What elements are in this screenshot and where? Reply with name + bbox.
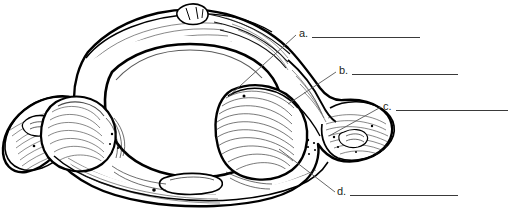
label-c[interactable]: c. [383,101,508,112]
posterior-tubercle [177,4,208,25]
worksheet-page: a. b. c. d. [0,0,514,222]
answer-line-b[interactable] [352,74,458,75]
label-d-letter: d. [337,186,350,197]
label-a[interactable]: a. [299,28,420,39]
label-a-letter: a. [299,28,312,39]
answer-line-d[interactable] [350,195,458,196]
label-b-letter: b. [339,65,352,76]
label-d[interactable]: d. [337,186,458,197]
label-b[interactable]: b. [339,65,458,76]
answer-line-a[interactable] [312,37,420,38]
label-c-letter: c. [383,101,396,112]
right-lateral-mass [215,85,307,179]
answer-line-c[interactable] [396,110,508,111]
